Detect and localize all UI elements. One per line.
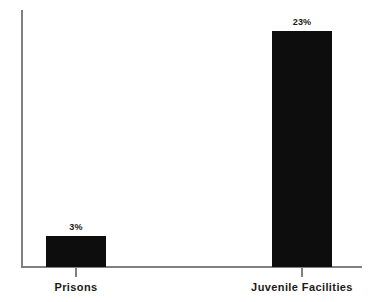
bar-chart: 3% 23% Prisons Juvenile Facilities [0, 0, 387, 302]
category-label-prisons: Prisons [54, 280, 97, 294]
x-axis-tick-juvenile-facilities [301, 268, 303, 277]
plot-area: 3% 23% [21, 10, 362, 267]
bar-value-prisons: 3% [46, 222, 106, 233]
bar-prisons [46, 236, 106, 267]
bar-juvenile-facilities [272, 31, 332, 267]
category-label-juvenile-facilities: Juvenile Facilities [251, 280, 353, 294]
bar-value-juvenile-facilities: 23% [272, 17, 332, 28]
x-axis-tick-prisons [75, 268, 77, 277]
